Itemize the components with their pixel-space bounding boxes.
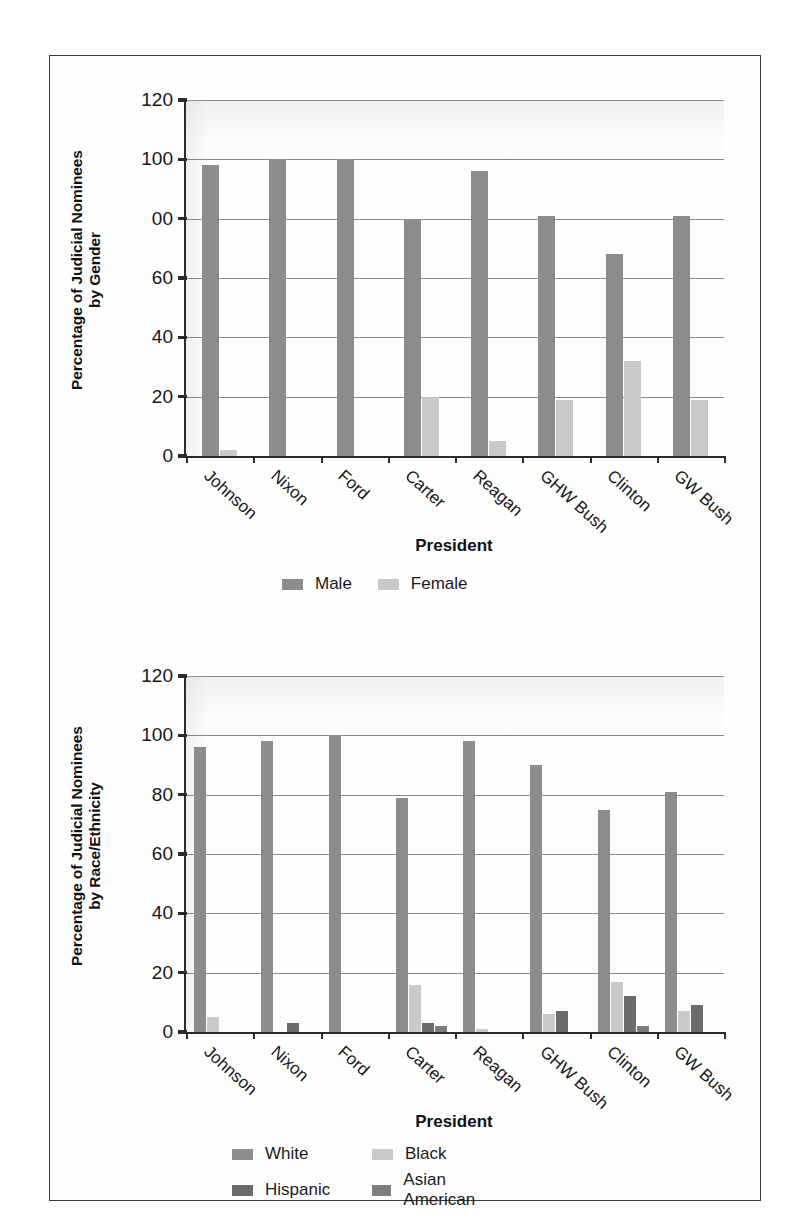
chart-panel-gender: Percentage of Judicial Nominees by Gende… (50, 56, 762, 616)
x-axis-tick-label: Johnson (199, 1042, 260, 1100)
x-axis-tick (388, 456, 390, 463)
bar (329, 735, 341, 1032)
y-axis-tick-label: 0 (162, 1021, 173, 1043)
legend-label: Black (405, 1144, 447, 1164)
bar (422, 1023, 434, 1032)
legend-label: White (265, 1144, 308, 1164)
bar (538, 216, 555, 456)
x-axis-tick-label: Johnson (199, 466, 260, 524)
legend-label: Hispanic (265, 1180, 330, 1200)
x-axis-title-race-ethnicity: President (184, 1112, 724, 1132)
bar (678, 1011, 690, 1032)
bar-group (657, 100, 724, 456)
x-axis-tick (657, 1032, 659, 1039)
figure-page: Percentage of Judicial Nominees by Gende… (0, 0, 808, 1226)
bar-group (455, 100, 522, 456)
chart-panel-race-ethnicity: Percentage of Judicial Nominees by Race/… (50, 632, 762, 1202)
legend-item[interactable]: Female (378, 574, 468, 594)
x-axis-tick-label: GHW Bush (535, 1042, 612, 1114)
y-axis-tick-label: 40 (152, 326, 173, 348)
x-axis-tick (321, 456, 323, 463)
x-axis-tick (522, 456, 524, 463)
bar (624, 996, 636, 1032)
bar (202, 165, 219, 456)
x-axis-tick-label: GW Bush (670, 466, 737, 530)
bar (556, 1011, 568, 1032)
x-axis-tick-label-cell: Reagan (455, 1032, 522, 1033)
bar-group (388, 676, 455, 1032)
legend-swatch-icon (232, 1149, 253, 1160)
bar (404, 219, 421, 456)
bar-group (253, 676, 320, 1032)
bar-group (186, 100, 253, 456)
bar (691, 400, 708, 456)
legend-label: Female (411, 574, 468, 594)
legend-item[interactable]: Asian American (372, 1170, 512, 1210)
legend-item[interactable]: Hispanic (232, 1170, 372, 1210)
x-axis-tick (455, 456, 457, 463)
x-axis-tick (657, 456, 659, 463)
x-axis-tick (590, 456, 592, 463)
legend-swatch-icon (372, 1149, 393, 1160)
bar (489, 441, 506, 456)
legend-item[interactable]: White (232, 1144, 372, 1164)
legend-item[interactable]: Black (372, 1144, 512, 1164)
x-axis-tick-labels: JohnsonNixonFordCarterReaganGHW BushClin… (186, 456, 724, 457)
x-axis-tick (590, 1032, 592, 1039)
y-axis-title-gender: Percentage of Judicial Nominees by Gende… (68, 110, 104, 430)
bar-group (455, 676, 522, 1032)
x-axis-tick-label: GHW Bush (535, 466, 612, 538)
x-axis-tick-label-cell: Carter (388, 456, 455, 457)
x-axis-tick (388, 1032, 390, 1039)
x-axis-tick (186, 456, 188, 463)
y-axis-tick-label: 120 (141, 89, 173, 111)
x-axis-tick-label: Ford (334, 1042, 373, 1080)
x-axis-tick-label: Nixon (266, 466, 312, 510)
bar (471, 171, 488, 456)
bar (422, 397, 439, 456)
bar (556, 400, 573, 456)
bar-group (321, 676, 388, 1032)
y-axis-tick-label: 60 (152, 843, 173, 865)
x-axis-tick-label: Carter (401, 1042, 449, 1088)
bar (611, 982, 623, 1032)
y-axis-tick-label: 20 (152, 385, 173, 407)
x-axis-tick (321, 1032, 323, 1039)
bar-group (522, 676, 589, 1032)
x-axis-tick-label-cell: Ford (321, 1032, 388, 1033)
bar-group (186, 676, 253, 1032)
y-axis-tick-label: 100 (141, 724, 173, 746)
y-axis-tick-label: 60 (152, 267, 173, 289)
y-axis-tick-label: 0 (162, 445, 173, 467)
legend-swatch-icon (378, 579, 399, 590)
x-axis-tick-label-cell: Carter (388, 1032, 455, 1033)
bar-groups (186, 676, 724, 1032)
x-axis-tick (253, 1032, 255, 1039)
bar-group (657, 676, 724, 1032)
legend-swatch-icon (282, 579, 303, 590)
x-axis-tick-label: Carter (401, 466, 449, 512)
plot-area-gender: 020406000100120JohnsonNixonFordCarterRea… (184, 100, 724, 458)
x-axis-tick-label-cell: Johnson (186, 456, 253, 457)
x-axis-title-gender: President (184, 536, 724, 556)
bar-group (522, 100, 589, 456)
x-axis-tick-label: Reagan (468, 466, 526, 521)
bar (269, 159, 286, 456)
x-axis-tick-label-cell: Clinton (590, 456, 657, 457)
bar (287, 1023, 299, 1032)
x-axis-tick-label: Nixon (266, 1042, 312, 1086)
bar (691, 1005, 703, 1032)
x-axis-tick-label: Clinton (603, 1042, 656, 1092)
x-axis-tick-label-cell: Clinton (590, 1032, 657, 1033)
x-axis-tick-label: GW Bush (670, 1042, 737, 1106)
legend-item[interactable]: Male (282, 574, 352, 594)
x-axis-tick (455, 1032, 457, 1039)
bar-group (590, 100, 657, 456)
x-axis-tick-label: Reagan (468, 1042, 526, 1097)
bar (337, 159, 354, 456)
x-axis-tick-label-cell: Nixon (253, 1032, 320, 1033)
x-axis-tick (253, 456, 255, 463)
x-axis-tick-label-cell: Reagan (455, 456, 522, 457)
x-axis-tick-label-cell: Johnson (186, 1032, 253, 1033)
x-axis-tick (522, 1032, 524, 1039)
